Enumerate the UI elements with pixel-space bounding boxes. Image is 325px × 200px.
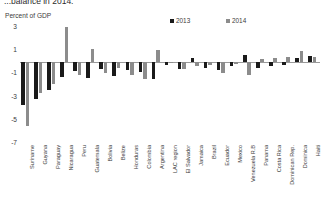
bar-group (98, 27, 111, 143)
x-axis-label: LAC region (172, 145, 178, 173)
bar-group (72, 27, 85, 143)
bar-2013 (178, 62, 182, 69)
x-axis-label: Honduras (133, 145, 139, 169)
bar-2013 (60, 62, 64, 77)
x-axis-label: Venezuela R.B (250, 145, 256, 182)
chart-title-clipped: ...balance in 2014: (4, 0, 204, 7)
bar-2014 (182, 62, 186, 69)
bar-group (20, 27, 33, 143)
bar-group (150, 27, 163, 143)
bar-group (229, 27, 242, 143)
x-axis-label: Ecuador (224, 145, 230, 166)
bar-2013 (308, 56, 312, 62)
bar-2013 (295, 58, 299, 61)
bar-2014 (234, 62, 238, 64)
legend-swatch-2014 (226, 19, 230, 23)
x-axis-label: Costa Rica (276, 145, 282, 172)
bar-2013 (191, 58, 195, 61)
bar-2014 (195, 62, 199, 67)
bar-2014 (286, 57, 290, 62)
bar-2014 (169, 62, 173, 63)
bar-2013 (99, 62, 103, 69)
bar-2014 (117, 62, 121, 68)
bar-2013 (256, 62, 260, 68)
bar-group (268, 27, 281, 143)
bar-group (216, 27, 229, 143)
bar-2013 (112, 62, 116, 76)
x-axis-labels: SurinameGuyanaParaguayNicaraguaPeruGuate… (20, 145, 320, 200)
y-axis-tick-label: -5 (3, 117, 17, 123)
bar-group (242, 27, 255, 143)
bar-2014 (300, 51, 304, 61)
legend-label-2013: 2013 (176, 17, 190, 24)
legend-item-2014: 2014 (226, 17, 246, 24)
chart-page: ...balance in 2014: Percent of GDP 2013 … (0, 0, 325, 200)
x-axis-label: Argentina (159, 145, 165, 169)
bar-2014 (247, 62, 251, 75)
y-axis-tick-label: -1 (3, 70, 17, 76)
bar-2014 (156, 50, 160, 62)
bar-2014 (39, 62, 43, 93)
bar-group (281, 27, 294, 143)
axis-units-subtitle: Percent of GDP (5, 12, 51, 19)
bar-2013 (152, 62, 156, 79)
bar-group (111, 27, 124, 143)
x-axis-label: Nicaragua (68, 145, 74, 171)
x-axis-label: El Salvador (185, 145, 191, 174)
bar-2014 (78, 62, 82, 75)
x-axis-label: Haiti (315, 145, 321, 156)
x-axis-label: Suriname (29, 145, 35, 169)
y-axis-tick-label: 1 (3, 47, 17, 53)
bar-series-container (20, 27, 320, 143)
x-axis-label: Panama (263, 145, 269, 166)
bar-2013 (47, 62, 51, 90)
x-axis-label: Peru (81, 145, 87, 157)
bar-2014 (65, 27, 69, 62)
bar-2014 (273, 58, 277, 61)
x-axis-label: Dominican Rep. (289, 145, 295, 185)
bar-group (203, 27, 216, 143)
bar-2013 (243, 55, 247, 62)
bar-group (255, 27, 268, 143)
bar-group (46, 27, 59, 143)
bar-2014 (221, 62, 225, 74)
bar-2014 (260, 59, 264, 61)
y-axis-tick-label: -7 (3, 140, 17, 146)
x-axis-label: Colombia (146, 145, 152, 169)
chart-legend: 2013 2014 (170, 17, 300, 27)
page-title: ...balance in 2014: (4, 0, 204, 7)
x-axis-label: Dominica (302, 145, 308, 168)
bar-group (307, 27, 320, 143)
legend-item-2013: 2013 (170, 17, 190, 24)
bar-2014 (130, 62, 134, 75)
x-axis-label: Brazil (211, 145, 217, 159)
bar-group (59, 27, 72, 143)
bar-group (163, 27, 176, 143)
x-axis-label: Mexico (237, 145, 243, 163)
bar-2013 (165, 62, 169, 65)
bar-2014 (143, 62, 147, 79)
bar-2014 (26, 62, 30, 126)
bar-2013 (86, 62, 90, 78)
bar-2013 (204, 62, 208, 68)
bar-2014 (52, 62, 56, 84)
bar-2013 (21, 62, 25, 105)
x-axis-label: Guatemala (94, 145, 100, 172)
plot-area: 31-1-3-5-7 (20, 27, 320, 143)
x-axis-label: Paraguay (55, 145, 61, 169)
bar-2013 (126, 62, 130, 70)
x-axis-label: Guyana (42, 145, 48, 165)
bar-2014 (208, 62, 212, 65)
x-axis-label: Bolivia (107, 145, 113, 161)
bar-2013 (282, 62, 286, 65)
legend-swatch-2013 (170, 19, 174, 23)
bar-2013 (34, 62, 38, 99)
bar-2013 (230, 62, 234, 67)
bar-2013 (269, 62, 273, 67)
bar-group (190, 27, 203, 143)
bar-group (85, 27, 98, 143)
y-axis-tick-label: -3 (3, 94, 17, 100)
x-axis-label: Jamaica (198, 145, 204, 166)
bar-group (177, 27, 190, 143)
bar-2013 (217, 62, 221, 70)
